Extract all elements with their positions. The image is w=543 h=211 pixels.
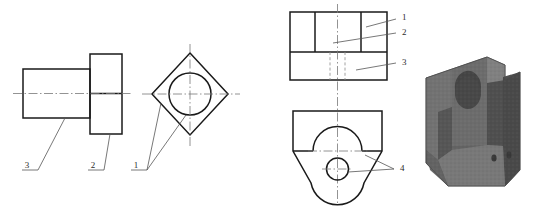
callout-label-left-1: 1 — [134, 160, 139, 170]
callout-label-mid-3: 3 — [402, 57, 407, 67]
leader-line-mid-1 — [366, 19, 396, 27]
mid-top-view — [290, 4, 387, 205]
left-front-view — [13, 54, 133, 134]
leader-line-2 — [104, 134, 110, 170]
leader-line-3 — [38, 118, 65, 170]
left-side-view — [142, 44, 240, 146]
left-callout-leaders — [22, 103, 186, 170]
leader-line-mid-3 — [356, 63, 396, 70]
callout-label-mid-1: 1 — [402, 12, 407, 22]
top-view-outline — [290, 12, 387, 80]
callout-label-mid-2: 2 — [402, 27, 407, 37]
solid-texture-overlay — [420, 50, 530, 195]
callout-label-mid-4: 4 — [400, 163, 405, 173]
callout-label-left-3: 3 — [25, 160, 30, 170]
leader-line-mid-4b — [365, 155, 394, 169]
drawing-sheet: 3 2 1 1 2 3 4 — [0, 0, 543, 211]
solid-model — [420, 50, 530, 195]
callout-label-left-2: 2 — [91, 160, 96, 170]
callout-labels: 3 2 1 1 2 3 4 — [25, 12, 407, 173]
technical-drawing-canvas: 3 2 1 1 2 3 4 — [0, 0, 543, 211]
